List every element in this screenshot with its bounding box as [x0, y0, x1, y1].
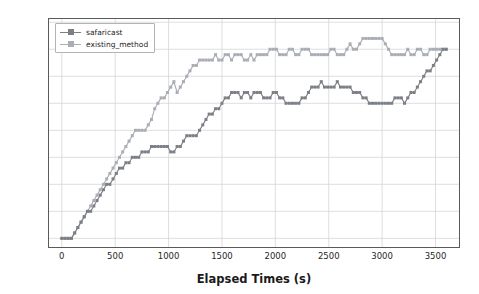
x-axis-title: Elapsed Times (s): [48, 272, 460, 286]
data-point-marker: [211, 113, 214, 116]
data-point-marker: [256, 91, 259, 94]
legend-label-existing-method: existing_method: [86, 40, 148, 49]
data-point-marker: [243, 59, 246, 62]
data-point-marker: [253, 59, 256, 62]
data-point-marker: [172, 150, 175, 153]
data-point-marker: [99, 194, 102, 197]
data-point-marker: [121, 167, 124, 170]
data-point-marker: [438, 48, 441, 51]
data-point-marker: [390, 102, 393, 105]
data-point-marker: [208, 113, 211, 116]
data-point-marker: [377, 37, 380, 40]
data-point-marker: [422, 53, 425, 56]
data-point-marker: [403, 102, 406, 105]
data-point-marker: [294, 53, 297, 56]
x-tick-label: 2000: [255, 251, 295, 261]
data-point-marker: [192, 134, 195, 137]
data-point-marker: [413, 53, 416, 56]
data-point-marker: [124, 145, 127, 148]
data-point-marker: [236, 53, 239, 56]
data-point-marker: [224, 53, 227, 56]
data-point-marker: [96, 194, 99, 197]
data-point-marker: [323, 53, 326, 56]
data-point-marker: [214, 53, 217, 56]
data-point-marker: [342, 86, 345, 89]
data-point-marker: [73, 231, 76, 234]
data-point-marker: [249, 96, 252, 99]
data-point-marker: [403, 53, 406, 56]
data-point-marker: [393, 53, 396, 56]
data-point-marker: [201, 123, 204, 126]
data-point-marker: [329, 48, 332, 51]
data-point-marker: [374, 37, 377, 40]
data-point-marker: [365, 37, 368, 40]
series-layer: [60, 37, 447, 240]
data-point-marker: [115, 172, 118, 175]
data-point-marker: [227, 53, 230, 56]
data-point-marker: [307, 48, 310, 51]
data-point-marker: [67, 237, 70, 240]
data-point-marker: [102, 183, 105, 186]
data-point-marker: [92, 204, 95, 207]
x-tick-label: 3500: [416, 251, 456, 261]
data-point-marker: [288, 48, 291, 51]
data-point-marker: [176, 145, 179, 148]
data-point-marker: [259, 53, 262, 56]
data-point-marker: [361, 96, 364, 99]
data-point-marker: [140, 150, 143, 153]
data-point-marker: [188, 134, 191, 137]
data-point-marker: [124, 161, 127, 164]
data-point-marker: [204, 118, 207, 121]
data-point-marker: [425, 53, 428, 56]
data-point-marker: [208, 59, 211, 62]
data-point-marker: [198, 129, 201, 132]
data-point-marker: [214, 107, 217, 110]
data-point-marker: [137, 129, 140, 132]
data-point-marker: [336, 53, 339, 56]
data-point-marker: [301, 48, 304, 51]
data-point-marker: [377, 102, 380, 105]
data-point-marker: [243, 91, 246, 94]
data-point-marker: [288, 102, 291, 105]
data-point-marker: [182, 80, 185, 83]
data-point-marker: [256, 53, 259, 56]
data-point-marker: [204, 59, 207, 62]
legend-square-marker-icon: [68, 29, 74, 35]
plot-svg: [49, 19, 459, 247]
data-point-marker: [272, 91, 275, 94]
data-point-marker: [233, 53, 236, 56]
data-point-marker: [272, 48, 275, 51]
data-point-marker: [163, 96, 166, 99]
data-point-marker: [397, 53, 400, 56]
data-point-marker: [355, 91, 358, 94]
data-point-marker: [310, 86, 313, 89]
data-point-marker: [313, 53, 316, 56]
data-point-marker: [320, 80, 323, 83]
data-point-marker: [387, 102, 390, 105]
data-point-marker: [76, 226, 79, 229]
data-point-marker: [233, 91, 236, 94]
data-point-marker: [397, 96, 400, 99]
data-point-marker: [285, 102, 288, 105]
data-point-marker: [285, 53, 288, 56]
data-point-marker: [429, 69, 432, 72]
data-point-marker: [147, 150, 150, 153]
data-point-marker: [323, 86, 326, 89]
data-point-marker: [422, 75, 425, 78]
data-point-marker: [195, 64, 198, 67]
data-point-marker: [96, 199, 99, 202]
data-point-marker: [275, 91, 278, 94]
data-point-marker: [339, 86, 342, 89]
data-point-marker: [249, 53, 252, 56]
data-point-marker: [230, 91, 233, 94]
data-point-marker: [361, 37, 364, 40]
legend-item-safaricast: safaricast: [60, 27, 148, 37]
chart-legend: safaricast existing_method: [55, 23, 155, 53]
data-point-marker: [150, 145, 153, 148]
data-point-marker: [105, 183, 108, 186]
data-point-marker: [333, 86, 336, 89]
series-line: [62, 38, 446, 238]
data-point-marker: [166, 145, 169, 148]
data-point-marker: [349, 42, 352, 45]
data-point-marker: [355, 48, 358, 51]
